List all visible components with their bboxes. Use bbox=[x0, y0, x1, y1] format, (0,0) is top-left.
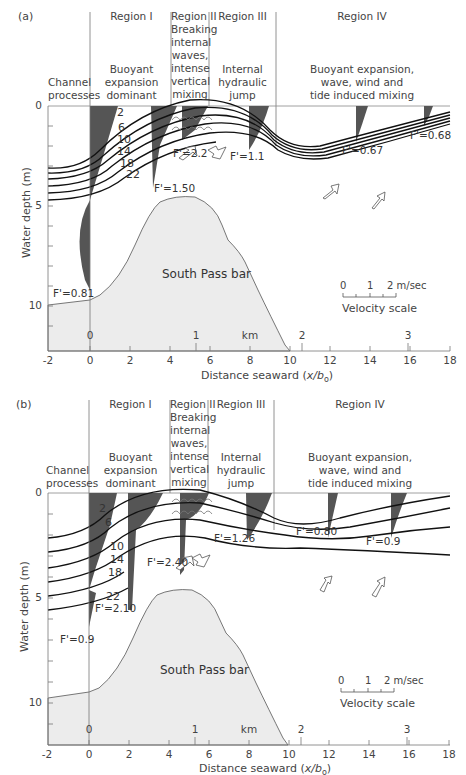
x-tick: 18 bbox=[443, 354, 456, 366]
region-4-desc: Buoyant expansion, wave, wind and tide i… bbox=[274, 451, 446, 490]
label-line: Region II bbox=[171, 10, 209, 23]
x-tick: 0 bbox=[86, 748, 93, 760]
label-line: intense bbox=[171, 62, 209, 75]
label-line: processes bbox=[46, 477, 88, 490]
x-tick: 18 bbox=[442, 748, 455, 760]
y-tick: 0 bbox=[28, 99, 42, 111]
km-tick: 3 bbox=[405, 329, 412, 341]
isopycnal-label: 18 bbox=[108, 566, 122, 579]
x-tick: 0 bbox=[87, 354, 94, 366]
x-tick: 4 bbox=[166, 748, 173, 760]
label-line: Channel bbox=[48, 76, 90, 89]
label-line: mixing bbox=[170, 476, 208, 489]
froude-label: F'=2.40 bbox=[147, 556, 188, 568]
label-line: dominant bbox=[92, 89, 171, 102]
region-4-desc: Buoyant expansion, wave, wind and tide i… bbox=[276, 63, 448, 102]
x-label-close: ) bbox=[329, 369, 333, 382]
label-line: hydraulic bbox=[209, 76, 276, 89]
froude-label: F'=0.81 bbox=[53, 287, 94, 299]
froude-label: F'=0.9 bbox=[366, 535, 400, 547]
x-label-close: ) bbox=[327, 762, 331, 775]
label-line: waves, bbox=[171, 49, 209, 62]
label-line: mixing bbox=[171, 88, 209, 101]
region-2-label: Region II Breaking internal waves, inten… bbox=[171, 10, 209, 101]
km-tick: 2 bbox=[299, 329, 306, 341]
velocity-scale-tick: 0 bbox=[338, 675, 344, 686]
label-line: expansion bbox=[91, 464, 170, 477]
x-label-var: x/b bbox=[307, 369, 324, 382]
isopycnal-label: 2 bbox=[117, 106, 124, 119]
isopycnal-label: 6 bbox=[105, 516, 112, 529]
x-tick: 8 bbox=[246, 748, 253, 760]
label-line: Buoyant expansion, bbox=[274, 451, 446, 464]
x-axis-label: Distance seaward (x/bo) bbox=[199, 762, 331, 775]
label-line: expansion bbox=[92, 76, 171, 89]
isopycnal-label: 14 bbox=[110, 553, 124, 566]
x-tick: 10 bbox=[282, 748, 295, 760]
froude-label: F'=2.10 bbox=[95, 602, 136, 614]
panel-b: (b) Channel processes Region I Buoyant e… bbox=[0, 390, 466, 775]
label-line: Buoyant bbox=[92, 63, 171, 76]
label-line: Internal bbox=[208, 451, 274, 464]
label-line: intense bbox=[170, 450, 208, 463]
froude-label: F'=1.50 bbox=[154, 182, 195, 194]
velocity-scale-tick: 1 bbox=[365, 675, 371, 686]
label-line: wave, wind and bbox=[276, 76, 448, 89]
y-tick: 0 bbox=[28, 486, 42, 498]
x-tick: 2 bbox=[127, 354, 134, 366]
velocity-scale-label: Velocity scale bbox=[340, 697, 415, 710]
region-4-title: Region IV bbox=[274, 398, 446, 411]
x-tick: 6 bbox=[207, 354, 214, 366]
x-tick: 8 bbox=[247, 354, 254, 366]
x-tick: 10 bbox=[283, 354, 296, 366]
panel-a-graphics bbox=[0, 0, 466, 390]
label-line: vertical bbox=[170, 463, 208, 476]
south-pass-bar-label: South Pass bar bbox=[160, 663, 249, 677]
x-label-text: Distance seaward ( bbox=[199, 762, 305, 775]
y-tick: 10 bbox=[28, 696, 42, 708]
km-tick: 3 bbox=[404, 723, 411, 735]
froude-label: F'=0.80 bbox=[296, 525, 337, 537]
label-line: Buoyant expansion, bbox=[276, 63, 448, 76]
label-line: internal bbox=[170, 424, 208, 437]
region-3-desc: Internal hydraulic jump bbox=[209, 63, 276, 102]
x-tick: 2 bbox=[126, 748, 133, 760]
label-line: Region II bbox=[170, 398, 208, 411]
label-line: jump bbox=[208, 477, 274, 490]
region-2-label: Region II Breaking internal waves, inten… bbox=[170, 398, 208, 489]
velocity-scale-tick: 0 bbox=[340, 280, 346, 291]
region-3-title: Region III bbox=[209, 10, 276, 23]
label-line: processes bbox=[48, 89, 90, 102]
x-tick: 16 bbox=[403, 354, 416, 366]
x-tick: 12 bbox=[323, 354, 336, 366]
label-line: jump bbox=[209, 89, 276, 102]
x-tick: -2 bbox=[43, 354, 53, 366]
froude-label: F'=0.67 bbox=[342, 144, 383, 156]
y-axis-label: Water depth (m) bbox=[20, 167, 33, 258]
froude-label: F'=1.26 bbox=[214, 532, 255, 544]
label-line: wave, wind and bbox=[274, 464, 446, 477]
channel-processes-label: Channel processes bbox=[48, 76, 90, 102]
region-1-title: Region I bbox=[91, 398, 170, 411]
x-tick: 4 bbox=[167, 354, 174, 366]
region-1-title: Region I bbox=[92, 10, 171, 23]
label-line: tide induced mixing bbox=[274, 477, 446, 490]
y-tick: 10 bbox=[28, 299, 42, 311]
label-line: hydraulic bbox=[208, 464, 274, 477]
x-tick: 14 bbox=[363, 354, 376, 366]
x-tick: -2 bbox=[42, 748, 52, 760]
label-line: Channel bbox=[46, 464, 88, 477]
isopycnal-label: 2 bbox=[99, 502, 106, 515]
km-tick: 0 bbox=[86, 723, 93, 735]
label-line: Buoyant bbox=[91, 451, 170, 464]
x-label-var: x/b bbox=[305, 762, 322, 775]
region-1-desc: Buoyant expansion dominant bbox=[91, 451, 170, 490]
label-line: Breaking bbox=[171, 23, 209, 36]
km-label: km bbox=[241, 723, 257, 735]
region-3-desc: Internal hydraulic jump bbox=[208, 451, 274, 490]
label-line: waves, bbox=[170, 437, 208, 450]
label-line: Breaking bbox=[170, 411, 208, 424]
velocity-scale-tick: 2 m/sec bbox=[387, 280, 427, 291]
x-tick: 16 bbox=[402, 748, 415, 760]
region-4-title: Region IV bbox=[276, 10, 448, 23]
